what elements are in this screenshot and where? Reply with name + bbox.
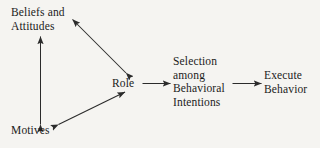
node-execute-behavior: Execute Behavior [264, 69, 307, 96]
node-beliefs-line-2: Attitudes [11, 20, 65, 34]
edge-beliefs-role [73, 20, 127, 74]
node-role: Role [112, 77, 134, 91]
edge-motives-role [59, 92, 126, 125]
node-role-line-1: Role [112, 77, 134, 91]
node-execute-line-1: Execute [264, 69, 307, 83]
diagram-canvas: Beliefs and Attitudes Motives Role Selec… [0, 0, 320, 148]
node-selection-line-1: Selection [173, 55, 225, 69]
node-selection-line-2: among [173, 69, 225, 83]
node-motives-line-1: Motives [11, 124, 50, 138]
node-motives: Motives [11, 124, 50, 138]
node-execute-line-2: Behavior [264, 83, 307, 97]
node-beliefs-line-1: Beliefs and [11, 6, 65, 20]
node-selection-line-4: Intentions [173, 96, 225, 110]
node-selection-line-3: Behavioral [173, 82, 225, 96]
node-beliefs-and-attitudes: Beliefs and Attitudes [11, 6, 65, 33]
node-selection-among-behavioral-intentions: Selection among Behavioral Intentions [173, 55, 225, 109]
